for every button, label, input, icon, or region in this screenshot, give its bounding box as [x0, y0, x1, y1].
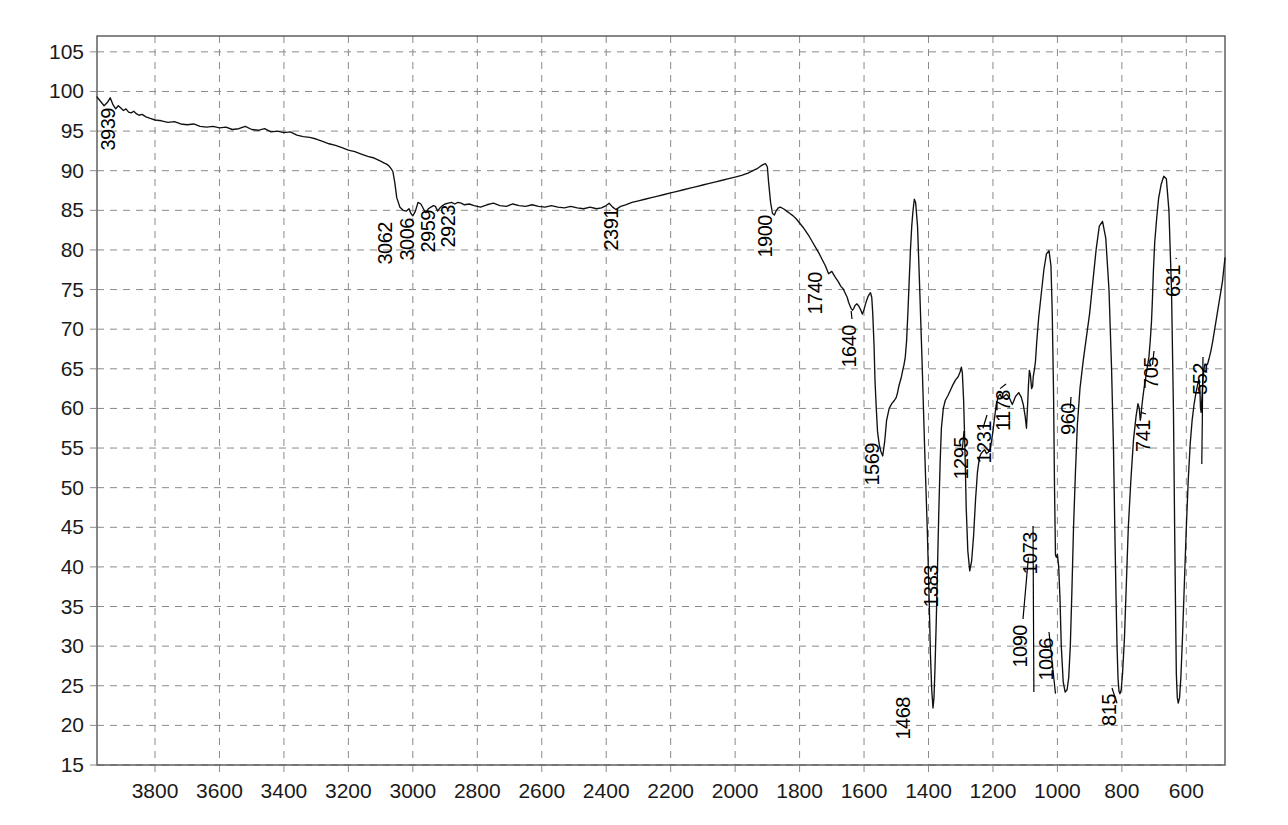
y-tick-label: 25: [61, 674, 84, 697]
y-tick-label: 15: [61, 753, 84, 776]
y-tick-label: 60: [61, 396, 84, 419]
peak-label-1295: 1295: [950, 437, 972, 480]
x-tick-label: 1600: [841, 779, 888, 802]
y-tick-label: 70: [61, 317, 84, 340]
x-tick-label: 600: [1169, 779, 1204, 802]
spectrum-plot-svg: 1520253035404550556065707580859095100105…: [0, 0, 1288, 825]
peak-annotations: 3939306230062959292323911900174016401569…: [97, 108, 1211, 740]
peak-label-1468: 1468: [892, 697, 914, 740]
peak-label-1073: 1073: [1019, 532, 1041, 575]
y-tick-label: 45: [61, 515, 84, 538]
x-tick-label: 2200: [647, 779, 694, 802]
peak-label-3939: 3939: [97, 108, 119, 151]
peak-label-1090: 1090: [1009, 625, 1031, 668]
peak-label-815: 815: [1098, 694, 1120, 726]
x-tick-label: 1000: [1034, 779, 1081, 802]
y-tick-label: 20: [61, 713, 84, 736]
spectrum-trace: [97, 97, 1225, 708]
y-tick-label: 95: [61, 119, 84, 142]
y-tick-label: 50: [61, 476, 84, 499]
peak-label-705: 705: [1140, 357, 1162, 389]
spectrum-trace-layer: [97, 97, 1225, 708]
peak-label-2959: 2959: [417, 210, 439, 253]
x-axis-ticks: 3800360034003200300028002600240022002000…: [132, 765, 1204, 802]
y-tick-label: 40: [61, 555, 84, 578]
ir-spectrum-chart: 1520253035404550556065707580859095100105…: [0, 0, 1288, 825]
x-tick-label: 1400: [905, 779, 952, 802]
peak-label-1900: 1900: [754, 215, 776, 258]
y-tick-label: 80: [61, 238, 84, 261]
peak-label-1383: 1383: [920, 565, 942, 608]
x-tick-label: 3800: [132, 779, 179, 802]
peak-label-552: 552: [1189, 363, 1211, 395]
x-tick-label: 3400: [261, 779, 308, 802]
peak-label-1740: 1740: [804, 272, 826, 315]
x-tick-label: 800: [1104, 779, 1139, 802]
y-tick-label: 100: [49, 79, 84, 102]
y-axis-ticks: 1520253035404550556065707580859095100105: [49, 40, 97, 776]
peak-label-3006: 3006: [396, 218, 418, 261]
peak-label-2391: 2391: [600, 208, 622, 251]
y-tick-label: 55: [61, 436, 84, 459]
peak-leader-line: [1000, 384, 1006, 389]
peak-label-2923: 2923: [437, 205, 459, 248]
x-tick-label: 1800: [776, 779, 823, 802]
peak-label-741: 741: [1132, 420, 1154, 452]
peak-label-1640: 1640: [838, 325, 860, 368]
peak-label-1569: 1569: [861, 443, 883, 486]
x-tick-label: 2800: [454, 779, 501, 802]
x-tick-label: 3600: [196, 779, 243, 802]
y-tick-label: 65: [61, 357, 84, 380]
x-tick-label: 3200: [325, 779, 372, 802]
y-tick-label: 105: [49, 40, 84, 63]
y-tick-label: 35: [61, 595, 84, 618]
peak-label-1178: 1178: [992, 390, 1014, 431]
y-tick-label: 75: [61, 278, 84, 301]
y-tick-label: 90: [61, 159, 84, 182]
peak-leader-line: [851, 311, 852, 319]
x-tick-label: 1200: [970, 779, 1017, 802]
peak-label-3062: 3062: [374, 222, 396, 265]
peak-label-960: 960: [1057, 403, 1079, 435]
peak-label-631: 631: [1162, 265, 1184, 297]
x-tick-label: 2400: [583, 779, 630, 802]
y-tick-label: 30: [61, 634, 84, 657]
x-tick-label: 3000: [389, 779, 436, 802]
x-tick-label: 2000: [712, 779, 759, 802]
peak-label-1006: 1006: [1035, 638, 1057, 681]
y-tick-label: 85: [61, 198, 84, 221]
x-tick-label: 2600: [518, 779, 565, 802]
